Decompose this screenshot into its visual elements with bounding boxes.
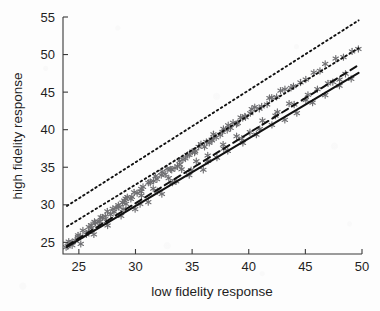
fit-dashed-line	[67, 65, 359, 246]
x-tick-label: 50	[355, 259, 369, 274]
x-tick-label: 35	[185, 259, 199, 274]
y-tick-label: 25	[41, 235, 55, 250]
x-tick-label: 30	[128, 259, 142, 274]
y-axis-title: high fidelity response	[10, 73, 25, 200]
x-tick-label: 25	[72, 259, 86, 274]
y-axis-tick-labels: 25303540455055	[41, 10, 55, 250]
x-axis-tick-labels: 253035404550	[72, 259, 370, 274]
y-tick-label: 35	[41, 160, 55, 175]
y-axis-ticks	[63, 17, 68, 242]
scatter-plot-figure: 253035404550 25303540455055 low fidelity…	[0, 0, 380, 311]
data-point	[78, 241, 83, 247]
y-tick-label: 40	[41, 122, 55, 137]
y-tick-label: 55	[41, 10, 55, 25]
plot-canvas: 253035404550 25303540455055 low fidelity…	[0, 0, 380, 311]
fit-solid-line	[67, 73, 359, 247]
x-axis-title: low fidelity response	[151, 284, 273, 299]
y-tick-label: 50	[41, 47, 55, 62]
data-point	[337, 76, 342, 82]
x-axis-ticks	[79, 249, 362, 254]
y-tick-label: 30	[41, 197, 55, 212]
x-tick-label: 40	[242, 259, 256, 274]
data-point	[80, 227, 85, 233]
y-tick-label: 45	[41, 85, 55, 100]
band-upper-dotted-line	[67, 20, 359, 206]
band-lower-dotted-line	[67, 48, 359, 226]
data-point	[323, 61, 328, 67]
x-tick-label: 45	[298, 259, 312, 274]
